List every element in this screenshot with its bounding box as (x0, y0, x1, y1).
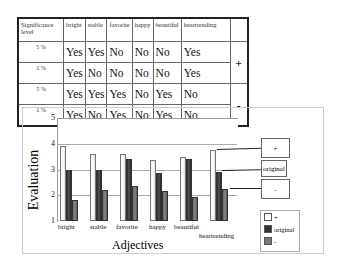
gridline (57, 144, 237, 145)
legend-item-plus: + (261, 211, 299, 223)
bar-favorite-minus (132, 186, 138, 221)
value-cell: No (85, 63, 107, 84)
header-happy: happy (132, 18, 153, 42)
bar-beautiful-minus (192, 197, 198, 221)
legend-swatch-plus (264, 213, 272, 221)
legend-swatch-minus (264, 237, 272, 245)
value-cell: Yes (107, 84, 132, 105)
x-tick-label: stable (90, 223, 106, 231)
level-cell: 1 % (18, 63, 64, 84)
value-cell: No (132, 42, 153, 63)
callout-line-minus (230, 188, 261, 189)
level-cell: 5 % (18, 84, 64, 105)
value-cell: Yes (85, 42, 107, 63)
sign-cell-plus: + (230, 42, 248, 84)
header-beautiful: beautiful (153, 18, 181, 42)
header-significance: Significance level (18, 18, 64, 42)
value-cell: Yes (85, 84, 107, 105)
y-tick-label: 5 (45, 113, 55, 122)
value-cell: No (107, 63, 132, 84)
table-row: 1 % Yes No No No No Yes (18, 63, 248, 84)
bar-bright-minus (72, 200, 78, 221)
level-cell: 5 % (18, 42, 64, 63)
callout-plus: + (261, 138, 290, 158)
legend-swatch-original (264, 225, 272, 233)
header-stable: stable (85, 18, 107, 42)
x-axis-label: Adjectives (112, 238, 163, 253)
x-tick-label: heartrending (199, 232, 234, 240)
header-heartrending: heartrending (181, 18, 230, 42)
value-cell: No (107, 42, 132, 63)
value-cell: No (132, 63, 153, 84)
y-axis-label: Evaluation (26, 140, 42, 220)
y-tick-label: 3 (45, 165, 55, 174)
callout-minus: - (261, 179, 290, 199)
header-favorite: favorite (107, 18, 132, 42)
y-tick-label: 2 (45, 190, 55, 199)
callout-original: original (261, 160, 287, 177)
value-cell: No (181, 84, 230, 105)
x-tick-label: favorite (116, 223, 138, 231)
value-cell: Yes (181, 42, 230, 63)
x-tick-label: beautiful (174, 223, 199, 231)
value-cell: Yes (153, 84, 181, 105)
x-tick-label: happy (149, 223, 166, 231)
header-sign (230, 18, 248, 42)
table-header-row: Significance level bright stable favorit… (18, 18, 248, 42)
x-tick-label: bright (58, 223, 75, 231)
chart-legend: + original - (260, 210, 300, 252)
bar-stable-minus (102, 190, 108, 221)
value-cell: Yes (64, 42, 86, 63)
value-cell: Yes (181, 63, 230, 84)
bar-heartrending-minus (222, 189, 228, 221)
table-row: 5 % Yes Yes No No No Yes + (18, 42, 248, 63)
value-cell: No (132, 84, 153, 105)
value-cell: No (153, 42, 181, 63)
legend-item-minus: - (261, 235, 299, 247)
legend-item-original: original (261, 223, 299, 235)
value-cell: No (153, 63, 181, 84)
bar-happy-minus (162, 191, 168, 221)
y-tick-label: 1 (45, 216, 55, 225)
header-bright: bright (64, 18, 86, 42)
value-cell: Yes (64, 84, 86, 105)
table-row: 5 % Yes Yes Yes No Yes No - (18, 84, 248, 105)
value-cell: Yes (64, 63, 86, 84)
y-tick-label: 4 (45, 139, 55, 148)
